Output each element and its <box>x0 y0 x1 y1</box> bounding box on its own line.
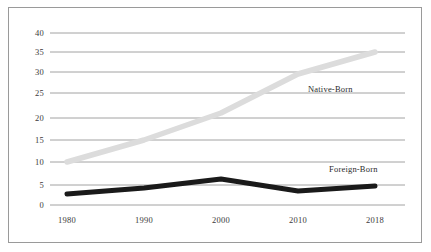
chart-figure: 40 35 30 25 20 15 10 5 0 1980 1990 2000 … <box>0 0 431 252</box>
foreign-born-line <box>67 179 375 194</box>
xtick-label-2018: 2018 <box>355 215 395 225</box>
ytick-label-40: 40 <box>20 28 44 38</box>
ytick-label-35: 35 <box>20 47 44 57</box>
native-born-line <box>67 52 375 162</box>
series-label-native-born: Native-Born <box>308 84 353 94</box>
series-label-foreign-born: Foreign-Born <box>329 164 378 174</box>
ytick-label-30: 30 <box>20 67 44 77</box>
xtick-label-1980: 1980 <box>47 215 87 225</box>
ytick-label-0: 0 <box>20 200 44 210</box>
xtick-label-1990: 1990 <box>124 215 164 225</box>
xtick-label-2000: 2000 <box>201 215 241 225</box>
xtick-label-2010: 2010 <box>278 215 318 225</box>
chart-plot-area: 40 35 30 25 20 15 10 5 0 1980 1990 2000 … <box>0 0 431 252</box>
ytick-label-5: 5 <box>20 180 44 190</box>
ytick-label-25: 25 <box>20 88 44 98</box>
ytick-label-15: 15 <box>20 135 44 145</box>
ytick-label-10: 10 <box>20 157 44 167</box>
ytick-label-20: 20 <box>20 113 44 123</box>
series-native-born <box>67 52 375 162</box>
series-foreign-born <box>67 179 375 194</box>
